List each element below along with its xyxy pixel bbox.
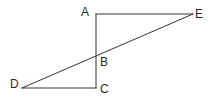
geometry-figure: A B C D E xyxy=(0,0,215,104)
vertex-label-b: B xyxy=(100,56,108,68)
vertex-label-c: C xyxy=(100,83,109,95)
vertex-label-d: D xyxy=(10,78,19,90)
segment-DE xyxy=(22,14,193,88)
vertex-label-a: A xyxy=(81,6,89,18)
vertex-label-e: E xyxy=(195,8,203,20)
